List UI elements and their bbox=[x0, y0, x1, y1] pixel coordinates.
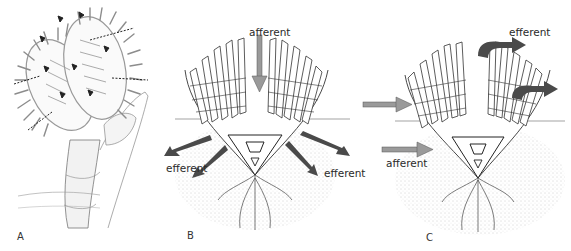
efferent-label: efferent bbox=[509, 27, 550, 38]
afferent-label: afferent bbox=[249, 27, 290, 38]
panel-c: efferent afferent C bbox=[360, 0, 571, 251]
afferent-label: afferent bbox=[386, 158, 427, 169]
lophophore-tube-illustration bbox=[0, 0, 150, 251]
panel-letter-b: B bbox=[187, 231, 194, 241]
efferent-label-left: efferent bbox=[166, 163, 207, 174]
panel-letter-c: C bbox=[426, 233, 433, 243]
panel-a: A bbox=[0, 0, 150, 251]
panel-b: afferent efferent efferent B bbox=[150, 0, 360, 251]
panel-letter-a: A bbox=[17, 232, 24, 242]
